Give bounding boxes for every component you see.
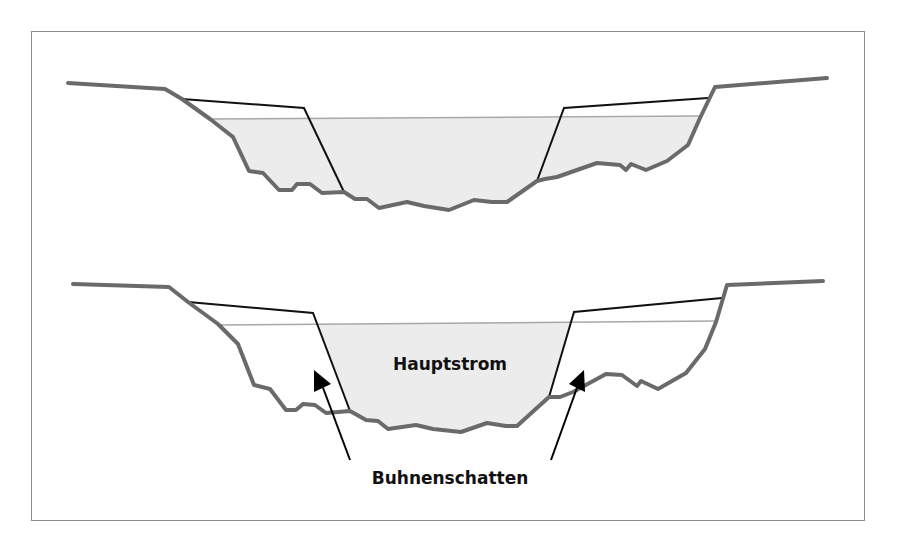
river-cross-section-diagram: Hauptstrom Buhnenschatten — [0, 0, 898, 546]
right-arrow — [551, 370, 585, 460]
bottom-panel: Hauptstrom Buhnenschatten — [73, 281, 823, 488]
label-hauptstrom: Hauptstrom — [393, 354, 507, 374]
top-water-fill — [210, 117, 700, 210]
top-panel — [68, 78, 827, 210]
label-buhnenschatten: Buhnenschatten — [372, 468, 529, 488]
